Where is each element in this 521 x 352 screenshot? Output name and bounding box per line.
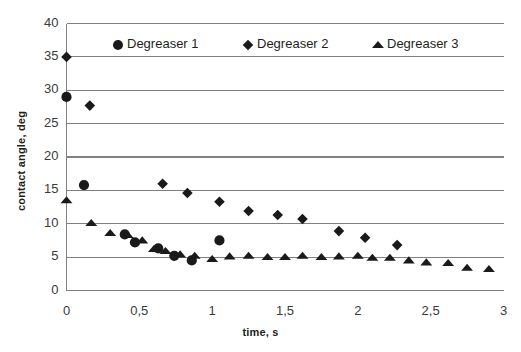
legend-marker-0 — [113, 40, 123, 50]
data-point-s2-23 — [461, 264, 473, 271]
data-point-s2-17 — [352, 252, 364, 259]
data-point-s1-6 — [272, 210, 283, 221]
data-point-s2-11 — [243, 252, 255, 259]
data-point-s2-8 — [189, 252, 201, 259]
x-tick-label-4: 2 — [338, 303, 378, 318]
legend-label-1: Degreaser 2 — [257, 36, 329, 51]
y-tick-label-20: 20 — [29, 148, 59, 163]
data-point-s0-0 — [61, 92, 71, 102]
data-point-s2-21 — [420, 258, 432, 265]
data-point-s1-9 — [360, 232, 371, 243]
x-tick-label-6: 3 — [484, 303, 521, 318]
y-tick-label-10: 10 — [29, 215, 59, 230]
data-point-s1-7 — [297, 214, 308, 225]
x-tick-label-3: 1,5 — [265, 303, 305, 318]
data-point-s2-12 — [262, 253, 274, 260]
legend-label-0: Degreaser 1 — [127, 36, 199, 51]
data-point-s2-2 — [104, 229, 116, 236]
x-tick-label-0: 0 — [47, 303, 87, 318]
data-point-s2-1 — [85, 219, 97, 226]
x-tick-label-2: 1 — [192, 303, 232, 318]
y-axis-title: contact angle, deg — [15, 86, 27, 236]
data-point-s2-16 — [333, 252, 345, 259]
legend-marker-2 — [372, 41, 384, 48]
data-point-s2-10 — [224, 252, 236, 259]
y-tick-label-15: 15 — [29, 181, 59, 196]
y-tick-label-40: 40 — [29, 15, 59, 30]
y-tick-label-5: 5 — [29, 248, 59, 263]
legend-marker-1 — [243, 40, 254, 51]
contact-angle-scatter-chart: 0510152025303540 00,511,522,53 Degreaser… — [0, 0, 521, 352]
y-tick-label-30: 30 — [29, 81, 59, 96]
plot-area — [0, 0, 521, 352]
data-point-s1-2 — [157, 178, 168, 189]
data-point-s2-14 — [297, 252, 309, 259]
data-point-s2-22 — [442, 259, 454, 266]
data-point-s2-15 — [315, 253, 327, 260]
x-tick-label-1: 0,5 — [119, 303, 159, 318]
data-point-s2-24 — [483, 265, 495, 272]
data-point-s2-9 — [206, 255, 218, 262]
data-point-s1-4 — [214, 196, 225, 207]
data-point-s1-5 — [243, 206, 254, 217]
x-axis-title: time, s — [0, 326, 521, 338]
legend-label-2: Degreaser 3 — [387, 36, 459, 51]
y-tick-label-25: 25 — [29, 115, 59, 130]
y-tick-label-35: 35 — [29, 48, 59, 63]
series-markers — [61, 52, 495, 273]
data-point-s2-0 — [61, 196, 73, 203]
data-point-s1-1 — [85, 100, 96, 111]
data-point-s1-8 — [334, 226, 345, 237]
data-point-s1-0 — [61, 52, 72, 63]
data-point-s0-1 — [79, 180, 89, 190]
y-tick-label-0: 0 — [29, 282, 59, 297]
gridlines — [67, 24, 504, 258]
data-point-s0-7 — [214, 235, 224, 245]
x-tick-label-5: 2,5 — [411, 303, 451, 318]
data-point-s1-10 — [392, 240, 403, 251]
data-point-s2-13 — [279, 253, 291, 260]
data-point-s1-3 — [182, 188, 193, 199]
